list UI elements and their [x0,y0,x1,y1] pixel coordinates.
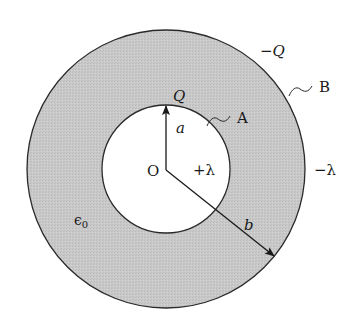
inner-charge-label: Q [173,87,185,105]
inner-line-density-label: +λ [193,161,216,179]
center-label-o: O [147,162,159,180]
permittivity-symbol: ϵ [74,212,82,228]
radius-a-label: a [176,119,185,137]
inner-conductor-label-a: A [236,109,248,127]
outer-line-density-label: −λ [314,161,337,179]
outer-conductor-label-b: B [319,78,330,96]
coaxial-capacitor-diagram: O Q A B −Q +λ −λ a b ϵ0 [0,0,363,319]
leader-squiggle-b [289,86,312,96]
permittivity-subscript: 0 [82,219,88,230]
radius-b-label: b [244,216,254,234]
outer-charge-label: −Q [260,42,285,60]
